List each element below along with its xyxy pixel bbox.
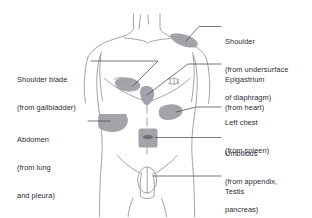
right-nipple-tick-a bbox=[170, 80, 171, 84]
label-abdomen-line2: (from lung bbox=[17, 163, 55, 172]
label-shoulder-blade-line2: (from gallbladder) bbox=[17, 103, 76, 112]
right-arm-inner bbox=[192, 56, 195, 102]
right-inguinal-crease bbox=[155, 156, 178, 174]
sternal-notch bbox=[146, 42, 150, 44]
patch-epigastrium bbox=[140, 86, 154, 105]
label-umbilicus-title: Umbilicus bbox=[225, 149, 277, 158]
label-testis: Testis (from ureter) bbox=[225, 168, 267, 217]
left-trapezius bbox=[88, 36, 124, 57]
neck-right-line bbox=[160, 14, 170, 37]
label-abdomen-line3: and pleura) bbox=[17, 191, 55, 200]
label-epigastrium-title: Epigastrium bbox=[225, 75, 265, 84]
patch-abdomen bbox=[98, 114, 128, 132]
patch-left-chest bbox=[159, 104, 183, 120]
label-left-chest-title: Left chest bbox=[225, 118, 269, 127]
referred-pain-patches bbox=[98, 34, 198, 148]
neck-left-line bbox=[124, 14, 134, 36]
right-inner-thigh bbox=[162, 199, 167, 218]
left-inguinal-crease bbox=[117, 155, 140, 173]
left-arm-outer bbox=[84, 57, 88, 103]
label-abdomen: Abdomen (from lung and pleura) bbox=[17, 116, 55, 217]
label-shoulder-title: Shoulder bbox=[225, 37, 288, 46]
referred-pain-diagram: Shoulder (from undersurface of diaphragm… bbox=[0, 0, 312, 217]
label-testis-title: Testis bbox=[225, 187, 267, 196]
throat-line-a bbox=[139, 15, 141, 29]
label-abdomen-title: Abdomen bbox=[17, 135, 55, 144]
left-hip-thigh bbox=[99, 168, 101, 217]
right-arm-outer bbox=[206, 58, 210, 104]
right-pectoral-crease bbox=[150, 79, 191, 102]
penis-right-edge bbox=[153, 174, 154, 197]
leader-lines bbox=[88, 27, 221, 177]
label-shoulder-blade-title: Shoulder blade bbox=[17, 75, 76, 84]
penis-tip bbox=[140, 196, 154, 199]
navel-slit bbox=[143, 135, 153, 139]
throat-line-b bbox=[148, 15, 149, 24]
left-clavicle bbox=[124, 38, 146, 42]
left-arm-inner bbox=[100, 55, 103, 101]
left-inner-thigh bbox=[128, 198, 133, 217]
label-testis-line2: (from ureter) bbox=[225, 215, 267, 217]
penis-left-edge bbox=[140, 173, 141, 196]
right-clavicle bbox=[150, 39, 170, 42]
right-nipple-tick-c bbox=[178, 80, 179, 84]
patch-shoulder bbox=[170, 34, 197, 48]
leader-left-chest bbox=[176, 107, 221, 112]
